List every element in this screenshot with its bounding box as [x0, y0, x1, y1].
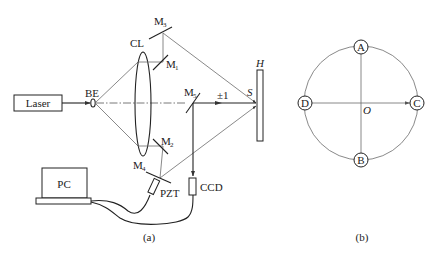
mirror-m1: M 1: [153, 55, 179, 72]
a-label: A: [357, 41, 365, 53]
beam-m4-s: [160, 106, 256, 178]
arrow-icon: [405, 101, 410, 104]
s-label: S: [247, 86, 253, 98]
figure-b: A B C D O (b): [298, 40, 424, 244]
beam-lower: [95, 103, 138, 146]
pzt-actuator: PZT: [148, 178, 180, 199]
order-label: ±1: [217, 89, 229, 101]
collimating-lens: CL: [130, 37, 151, 156]
mirror-m5: M 5: [184, 86, 200, 113]
caption-b: (b): [356, 231, 369, 244]
b-label: B: [357, 154, 364, 166]
computer: PC: [36, 168, 91, 204]
pzt-label: PZT: [160, 187, 180, 199]
caption-a: (a): [143, 231, 156, 244]
arrow-icon: [215, 101, 222, 105]
ccd-label: CCD: [200, 181, 223, 193]
mirror-m4: M 4: [133, 159, 171, 183]
optical-setup-figure: Laser BE CL M 3: [0, 0, 437, 253]
ccd-camera: CCD: [189, 178, 223, 195]
point-a: A: [354, 40, 368, 54]
m2-sub: 2: [170, 141, 174, 149]
o-label: O: [363, 104, 371, 116]
beam-upper: [95, 62, 138, 103]
m5-sub: 5: [193, 92, 197, 100]
mirror-m3: M 3: [149, 15, 172, 39]
beam-m2-m4: [160, 146, 163, 178]
m4-sub: 4: [142, 165, 146, 173]
c-label: C: [413, 97, 420, 109]
be-label: BE: [85, 87, 99, 99]
figure-a: Laser BE CL M 3: [14, 15, 265, 244]
cl-label: CL: [130, 37, 144, 49]
m3-sub: 3: [163, 21, 167, 29]
mirror-m2: M 2: [153, 135, 174, 154]
hologram-plate: H S: [247, 57, 265, 141]
point-d: D: [298, 96, 312, 110]
point-b: B: [354, 153, 368, 167]
m1-sub: 1: [175, 64, 179, 72]
laser-label: Laser: [26, 97, 51, 109]
d-label: D: [301, 97, 309, 109]
h-label: H: [255, 57, 265, 69]
laser: Laser: [14, 95, 62, 111]
beam-expander: BE: [85, 87, 99, 107]
point-c: C: [410, 96, 424, 110]
pc-label: PC: [57, 178, 70, 190]
